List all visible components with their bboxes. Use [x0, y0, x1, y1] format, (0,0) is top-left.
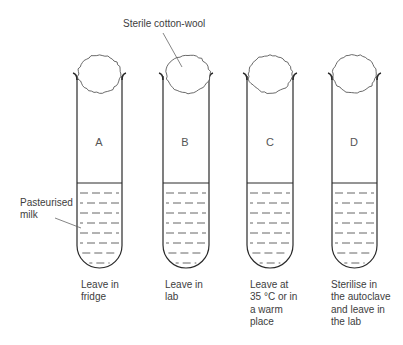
tube-c-caption: Leave at 35 °C or in a warm place	[250, 279, 297, 328]
test-tube-diagram: Sterile cotton-wool Pasteurised milk A B…	[0, 0, 403, 345]
tube-c-letter: C	[266, 136, 274, 148]
tube-d-letter: D	[350, 136, 358, 148]
tube-a-letter: A	[95, 136, 102, 148]
tube-a-lip-right	[122, 73, 126, 80]
tube-a-caption: Leave in fridge	[81, 279, 119, 304]
tube-b-cotton-wool	[166, 55, 211, 94]
tube-c-lip-left	[243, 73, 247, 80]
tube-d-caption: Sterilise in the autoclave and leave in …	[331, 279, 391, 328]
tube-d-cotton-wool	[332, 55, 376, 93]
tube-b-caption: Leave in lab	[165, 279, 203, 304]
sterile-cotton-wool-label: Sterile cotton-wool	[123, 18, 205, 30]
tube-a-lip-left	[73, 73, 77, 80]
tube-b-lip-left	[159, 73, 163, 80]
pasteurised-milk-label: Pasteurised milk	[20, 197, 73, 222]
tube-c-glass	[247, 76, 293, 268]
tube-a-cotton-wool	[77, 55, 121, 93]
tube-b-letter: B	[181, 136, 188, 148]
tube-c-cotton-wool	[248, 55, 292, 94]
tube-d-lip-right	[377, 73, 381, 80]
tube-d-glass	[332, 76, 377, 268]
tube-a-glass	[77, 76, 122, 268]
tube-b-glass	[163, 76, 209, 268]
tube-d-lip-left	[328, 73, 332, 80]
tube-c-lip-right	[293, 73, 297, 80]
